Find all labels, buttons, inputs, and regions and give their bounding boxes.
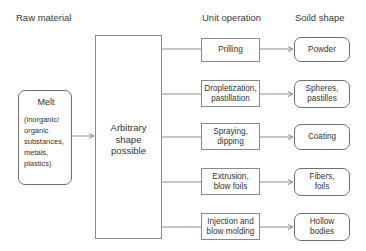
unit-op-injection: Injection and blow molding xyxy=(201,213,260,240)
shape-hollow-bodies: Hollow bodies xyxy=(294,213,350,241)
shape-powder: Powder xyxy=(294,37,350,62)
melt-title: Melt xyxy=(24,97,68,107)
shape-coating: Coating xyxy=(294,124,350,150)
unit-op-spraying: Spraying, dipping xyxy=(201,123,260,150)
shape-spheres: Spheres, pastilles xyxy=(294,80,350,108)
arbitrary-shape-box: Arbitrary shape possible xyxy=(95,35,162,239)
melt-detail: (inorganic/ organic substances, metals, … xyxy=(24,114,64,169)
unit-op-dropletization: Dropletization, pastillation xyxy=(201,80,260,107)
shape-fibers: Fibers, foils xyxy=(294,168,350,196)
melt-box: Melt (inorganic/ organic substances, met… xyxy=(18,90,72,185)
arbitrary-shape-label: Arbitrary shape possible xyxy=(111,122,147,157)
unit-op-prilling: Prilling xyxy=(201,38,260,62)
unit-op-extrusion: Extrusion, blow foils xyxy=(201,168,260,195)
